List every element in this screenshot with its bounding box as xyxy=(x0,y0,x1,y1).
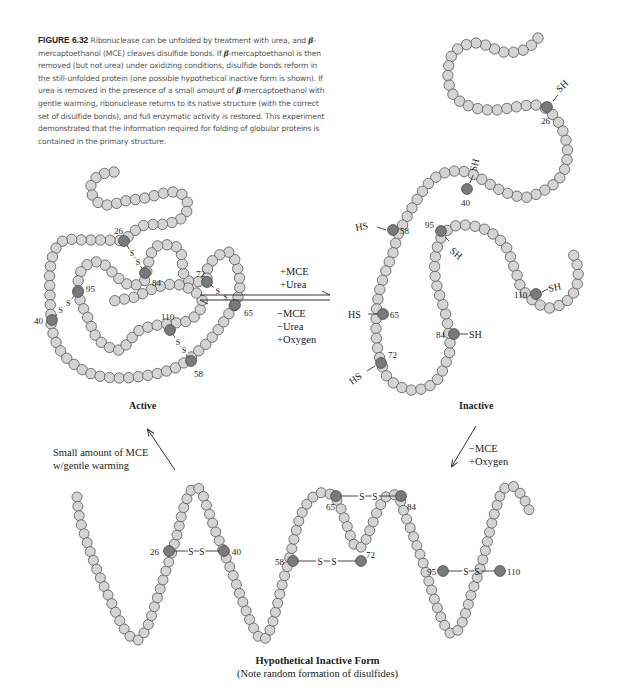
cysteine-residue xyxy=(495,566,506,577)
residue-bead xyxy=(201,500,211,510)
cysteine-residue xyxy=(449,329,460,340)
residue-bead xyxy=(144,257,154,267)
residue-bead xyxy=(164,557,174,567)
thiol-label: SH xyxy=(547,281,562,294)
cysteine-residue xyxy=(396,491,407,502)
residue-bead xyxy=(471,38,481,48)
cysteine-residue xyxy=(47,315,58,326)
cysteine-residue xyxy=(165,325,176,336)
cysteine-residue xyxy=(462,184,473,195)
residue-bead xyxy=(424,576,434,586)
residue-bead xyxy=(76,235,86,245)
sulfur-label: S xyxy=(182,346,186,355)
residue-bead xyxy=(45,261,55,271)
residue-bead xyxy=(82,538,92,548)
oxidize-conditions: −MCE +Oxygen xyxy=(469,442,508,468)
residue-number-label: 26 xyxy=(150,547,160,557)
residue-bead xyxy=(492,500,502,510)
residue-bead xyxy=(461,608,471,618)
sulfur-label: S xyxy=(66,299,70,308)
residue-number-label: 58 xyxy=(275,557,285,567)
residue-bead xyxy=(171,242,181,252)
thiol-label: SH xyxy=(554,78,571,95)
residue-bead xyxy=(79,529,89,539)
residue-bead xyxy=(470,221,480,231)
residue-bead xyxy=(131,280,141,290)
residue-bead xyxy=(561,135,571,145)
residue-bead xyxy=(45,300,55,310)
residue-bead xyxy=(178,268,188,278)
forward-conditions: +MCE +Urea xyxy=(280,265,309,291)
residue-bead xyxy=(119,294,129,304)
residue-bead xyxy=(429,261,439,271)
cysteine-residue xyxy=(542,102,553,113)
residue-bead xyxy=(371,323,381,333)
residue-bead xyxy=(432,281,442,291)
residue-number-label: 110 xyxy=(507,567,521,577)
residue-bead xyxy=(430,271,440,281)
residue-bead xyxy=(535,300,545,310)
residue-bead xyxy=(460,220,470,230)
ribonuclease-folding-diagram: SSSSSSSS26847265954011058 SHSHHSSHHSSHSH… xyxy=(0,0,635,693)
residue-bead xyxy=(277,580,287,590)
residue-bead xyxy=(195,304,205,314)
residue-bead xyxy=(110,296,120,306)
residue-bead xyxy=(268,616,278,626)
condition-remove-urea: −Urea xyxy=(277,320,316,333)
residue-bead xyxy=(524,505,534,515)
cysteine-residue xyxy=(378,309,389,320)
condition-add-urea: +Urea xyxy=(280,278,309,291)
sulfur-label: S xyxy=(372,492,377,502)
refold-arrow xyxy=(148,430,175,470)
residue-bead xyxy=(512,270,522,280)
residue-bead xyxy=(444,347,454,357)
residue-bead xyxy=(182,197,192,207)
residue-bead xyxy=(372,343,382,353)
residue-bead xyxy=(440,309,450,319)
residue-bead xyxy=(482,105,492,115)
residue-bead xyxy=(390,238,400,248)
sulfur-label: S xyxy=(199,547,204,557)
residue-bead xyxy=(234,273,244,283)
thiol-label: SH xyxy=(448,245,465,262)
condition-add-oxygen: +Oxygen xyxy=(277,333,316,346)
residue-bead xyxy=(438,299,448,309)
residue-bead xyxy=(487,518,497,528)
residue-bead xyxy=(463,599,473,609)
condition-add-mce: +MCE xyxy=(280,265,309,278)
residue-bead xyxy=(133,372,143,382)
residue-bead xyxy=(316,488,326,498)
residue-bead xyxy=(511,102,521,112)
residue-bead xyxy=(289,534,299,544)
residue-bead xyxy=(167,217,177,227)
residue-bead xyxy=(172,530,182,540)
residue-bead xyxy=(155,584,165,594)
residue-bead xyxy=(406,385,416,395)
residue-bead xyxy=(45,290,55,300)
sulfur-label: S xyxy=(475,567,480,577)
residue-bead xyxy=(205,509,215,519)
residue-bead xyxy=(562,155,572,165)
residue-bead xyxy=(478,555,488,565)
cysteine-residue xyxy=(73,287,84,298)
residue-bead xyxy=(375,284,385,294)
residue-bead xyxy=(111,198,121,208)
residue-number-label: 72 xyxy=(388,350,397,360)
residue-bead xyxy=(434,290,444,300)
residue-bead xyxy=(531,100,541,110)
residue-bead xyxy=(371,333,381,343)
residue-number-label: 110 xyxy=(514,290,528,300)
residue-bead xyxy=(93,197,103,207)
cysteine-residue xyxy=(186,356,197,367)
residue-bead xyxy=(485,527,495,537)
hypothetical-subtitle: (Note random formation of disulfides) xyxy=(0,668,635,679)
residue-bead xyxy=(521,192,531,202)
residue-bead xyxy=(270,607,280,617)
residue-bead xyxy=(441,357,451,367)
cysteine-residue xyxy=(164,546,175,557)
residue-bead xyxy=(480,546,490,556)
condition-gentle-warming: w/gentle warming xyxy=(53,459,148,472)
cysteine-residue xyxy=(376,358,387,369)
residue-bead xyxy=(473,103,483,113)
cysteine-residue xyxy=(388,225,399,236)
